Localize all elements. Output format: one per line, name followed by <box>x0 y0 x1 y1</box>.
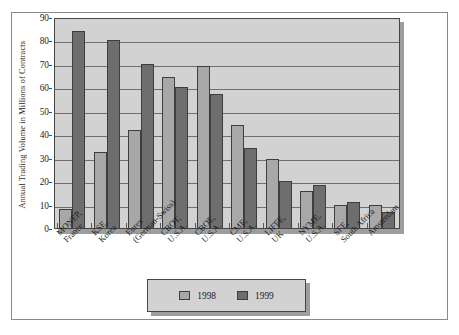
bar-group <box>330 19 364 228</box>
legend-label: 1998 <box>197 291 216 301</box>
bar-group <box>193 19 227 228</box>
y-axis-tick-label: 40 <box>40 130 49 140</box>
y-axis-tick-mark <box>49 88 52 89</box>
y-axis-tick-label: 70 <box>40 60 49 70</box>
y-axis-tick-label: 80 <box>40 36 49 46</box>
bar-1999 <box>107 40 120 228</box>
chart-legend: 19981999 <box>147 279 306 312</box>
y-axis-tick-label: 30 <box>40 154 49 164</box>
y-axis-tick-mark <box>49 112 52 113</box>
bar-1999 <box>210 94 223 228</box>
y-axis-tick-label: 50 <box>40 107 49 117</box>
y-axis-tick-mark <box>49 206 52 207</box>
y-axis-tick-mark <box>49 229 52 230</box>
y-axis-tick-label: 20 <box>40 177 49 187</box>
bar-1998 <box>231 125 244 228</box>
plot-area <box>54 18 400 229</box>
bar-group <box>124 19 158 228</box>
bar-1998 <box>128 130 141 228</box>
bar-1999 <box>72 31 85 228</box>
bar-1998 <box>197 66 210 228</box>
y-axis-tick-mark <box>49 65 52 66</box>
bar-1999 <box>175 87 188 228</box>
y-axis-tick-mark <box>49 182 52 183</box>
legend-swatch-1999 <box>237 291 248 300</box>
bar-group <box>55 19 89 228</box>
y-axis-tick-mark <box>49 18 52 19</box>
y-axis-tick-mark <box>49 159 52 160</box>
legend-entry: 1998 <box>179 291 216 301</box>
bars-layer <box>55 19 399 228</box>
y-axis-tick-mark <box>49 41 52 42</box>
legend-label: 1999 <box>255 291 274 301</box>
y-axis-tick-label: 90 <box>40 13 49 23</box>
bar-group <box>261 19 295 228</box>
y-axis-title: Annual Trading Volume in Millions of Con… <box>14 20 30 230</box>
y-axis-tick-label: 10 <box>40 201 49 211</box>
bar-group <box>227 19 261 228</box>
legend-swatch-1998 <box>179 291 190 300</box>
y-axis-title-text: Annual Trading Volume in Millions of Con… <box>18 41 27 209</box>
y-axis-tick-mark <box>49 135 52 136</box>
bar-group <box>365 19 399 228</box>
bar-group <box>89 19 123 228</box>
y-axis-tick-labels: 0102030405060708090 <box>30 14 52 229</box>
y-axis-tick-label: 60 <box>40 83 49 93</box>
bar-group <box>296 19 330 228</box>
legend-entry: 1999 <box>237 291 274 301</box>
